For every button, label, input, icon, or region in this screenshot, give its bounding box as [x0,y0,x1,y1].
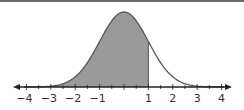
normal-distribution-chart: −4−3−2−11234 [0,0,244,110]
x-tick-label: −1 [89,92,105,105]
x-tick-label: −3 [41,92,57,105]
x-axis-left-arrow-icon [13,84,20,90]
chart-canvas: −4−3−2−11234 [0,0,244,110]
x-axis-right-arrow-icon [225,84,232,90]
x-axis-tick-labels: −4−3−2−11234 [16,92,225,105]
shaded-area-left-of-z1 [24,12,148,87]
x-tick-label: 4 [218,92,225,105]
x-tick-label: −2 [65,92,81,105]
x-tick-label: 1 [145,92,152,105]
x-tick-label: 2 [169,92,176,105]
x-tick-label: −4 [16,92,32,105]
x-tick-label: 3 [194,92,201,105]
